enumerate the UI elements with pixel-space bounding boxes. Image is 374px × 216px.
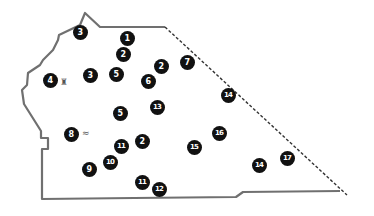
map-marker[interactable]: 10	[103, 155, 118, 170]
map-marker[interactable]: 3	[83, 68, 98, 83]
map-marker[interactable]: 6	[141, 74, 156, 89]
map-marker[interactable]: 5	[113, 106, 128, 121]
map-marker[interactable]: 3	[73, 25, 88, 40]
map-marker[interactable]: 2	[116, 47, 131, 62]
map-marker[interactable]: 12	[152, 182, 167, 197]
map-marker[interactable]: 14	[252, 158, 267, 173]
map-marker[interactable]: 11	[135, 175, 150, 190]
map-marker[interactable]: 16	[212, 126, 227, 141]
pin-icon: ♜	[60, 78, 68, 87]
map-marker[interactable]: 9	[82, 162, 97, 177]
region-boundary	[0, 0, 374, 216]
map-marker[interactable]: 5	[109, 67, 124, 82]
map-marker[interactable]: 7	[180, 55, 195, 70]
map-marker[interactable]: 17	[280, 151, 295, 166]
map-marker[interactable]: 14	[221, 88, 236, 103]
map-container: 123274356145138112161510914171112 ♜≈	[0, 0, 374, 216]
map-marker[interactable]: 8	[64, 127, 79, 142]
map-marker[interactable]: 15	[187, 140, 202, 155]
map-marker[interactable]: 11	[114, 139, 129, 154]
map-marker[interactable]: 1	[120, 31, 135, 46]
map-marker[interactable]: 2	[135, 134, 150, 149]
wave-icon: ≈	[82, 129, 90, 138]
map-marker[interactable]: 13	[150, 100, 165, 115]
map-marker[interactable]: 4	[43, 73, 58, 88]
map-marker[interactable]: 2	[154, 59, 169, 74]
